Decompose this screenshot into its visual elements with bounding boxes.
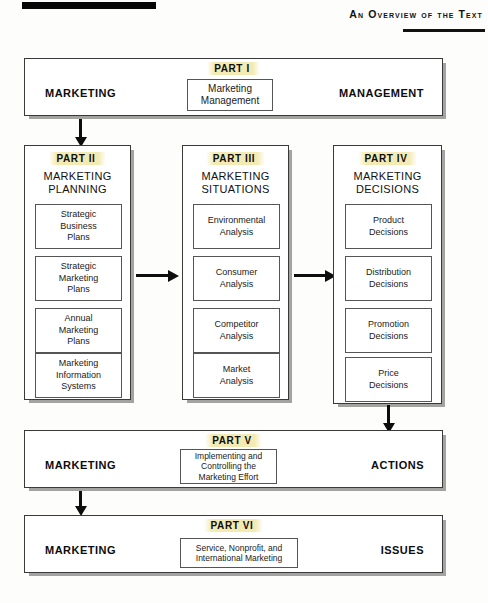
arrow-part4-to-part5 <box>387 405 390 424</box>
part-1-right-label: MANAGEMENT <box>339 87 424 99</box>
part-5-left-label: MARKETING <box>45 459 116 471</box>
part-5-label: PART V <box>25 435 442 446</box>
part-4-title: MARKETINGDECISIONS <box>334 170 441 196</box>
part-6-right-label: ISSUES <box>381 544 424 556</box>
part-4-item-3: PromotionDecisions <box>345 308 432 353</box>
part-1-center-box: MarketingManagement <box>187 79 273 111</box>
part-3-item-4: MarketAnalysis <box>193 353 280 398</box>
part-3-item-1: EnvironmentalAnalysis <box>193 204 280 249</box>
part-4-item-2: DistributionDecisions <box>345 256 432 301</box>
part-4-label-text: PART IV <box>359 152 417 165</box>
part-3-item-3: CompetitorAnalysis <box>193 308 280 353</box>
part-5-center-box: Implementing andControlling theMarketing… <box>180 449 277 484</box>
page-header-title: An Overview of the Text <box>349 8 483 20</box>
header-underline-rule <box>403 29 485 32</box>
part-2-item-1: StrategicBusinessPlans <box>35 204 122 249</box>
part-3-label-text: PART III <box>207 152 264 165</box>
part-4-item-1: ProductDecisions <box>345 204 432 249</box>
part-2-label-text: PART II <box>50 152 104 165</box>
part-3-title: MARKETINGSITUATIONS <box>183 170 288 196</box>
part-5-right-label: ACTIONS <box>371 459 424 471</box>
arrow-part2-to-part3 <box>136 274 169 277</box>
part-4-item-4: PriceDecisions <box>345 357 432 402</box>
part-6-left-label: MARKETING <box>45 544 116 556</box>
part-2-label: PART II <box>25 153 130 164</box>
part-2-item-2: StrategicMarketingPlans <box>35 256 122 301</box>
part-3-label: PART III <box>183 153 288 164</box>
part-4-label: PART IV <box>334 153 441 164</box>
top-black-rule <box>22 2 156 9</box>
part-5-label-text: PART V <box>206 434 261 447</box>
part-2-item-4: MarketingInformationSystems <box>35 353 122 398</box>
diagram-page: An Overview of the Text PART I MARKETING… <box>0 0 488 603</box>
part-3-item-2: ConsumerAnalysis <box>193 256 280 301</box>
part-6-center-box: Service, Nonprofit, andInternational Mar… <box>180 538 298 568</box>
part-1-label-text: PART I <box>208 62 259 75</box>
part-5-band: PART V MARKETING ACTIONS Implementing an… <box>24 430 443 488</box>
arrow-part1-to-part2 <box>79 119 82 138</box>
part-1-label: PART I <box>25 63 442 74</box>
part-2-title: MARKETINGPLANNING <box>25 170 130 196</box>
part-6-label: PART VI <box>25 520 442 531</box>
arrow-part3-to-part4 <box>294 274 326 277</box>
part-1-band: PART I MARKETING MANAGEMENT MarketingMan… <box>24 58 443 116</box>
part-4-column: PART IV MARKETINGDECISIONS ProductDecisi… <box>333 145 442 404</box>
part-2-item-3: AnnualMarketingPlans <box>35 308 122 353</box>
part-3-column: PART III MARKETINGSITUATIONS Environment… <box>182 145 289 400</box>
part-2-column: PART II MARKETINGPLANNING StrategicBusin… <box>24 145 131 400</box>
part-6-band: PART VI MARKETING ISSUES Service, Nonpro… <box>24 515 443 573</box>
part-1-left-label: MARKETING <box>45 87 116 99</box>
part-6-label-text: PART VI <box>205 519 263 532</box>
arrow-part5-to-part6 <box>79 491 82 507</box>
